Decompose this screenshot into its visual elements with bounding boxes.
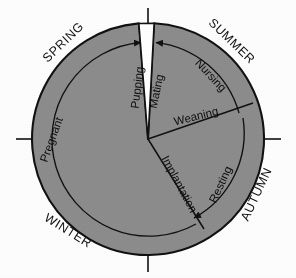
figure-canvas: SPRING SUMMER AUTUMN WINTER Pupping Mati… xyxy=(0,0,296,278)
annual-cycle-diagram: SPRING SUMMER AUTUMN WINTER Pupping Mati… xyxy=(0,0,296,278)
